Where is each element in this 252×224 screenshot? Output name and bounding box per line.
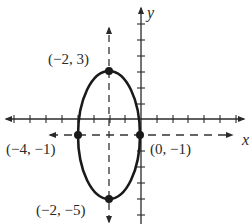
x-axis	[6, 115, 244, 123]
point-label-top: (−2, 3)	[48, 51, 89, 68]
point-top	[105, 67, 113, 75]
point-label-left: (−4, −1)	[6, 141, 55, 158]
point-label-right: (0, −1)	[150, 141, 191, 158]
point-left	[74, 131, 82, 139]
ellipse-diagram: y x (−2, 3) (−4, −1) (0, −1) (−2, −5)	[0, 0, 252, 224]
point-label-bottom: (−2, −5)	[36, 202, 85, 219]
point-right	[136, 131, 144, 139]
x-axis-label: x	[241, 131, 249, 148]
point-bottom	[105, 195, 113, 203]
y-axis-label: y	[145, 4, 155, 22]
